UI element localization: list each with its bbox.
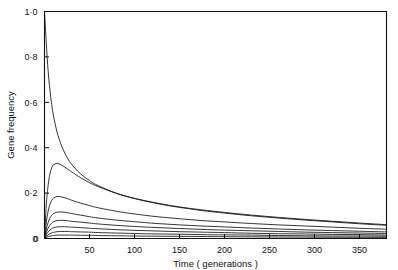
y-tick-label: 0·4 [24,143,37,153]
curve-curve-1 [45,12,387,226]
y-tick-label: 1·0 [24,7,37,17]
x-axis-title: Time ( generations ) [173,258,258,269]
y-tick-label: 0·8 [24,52,37,62]
x-tick-label: 150 [172,245,187,255]
x-tick-label: 200 [217,245,232,255]
y-axis-ticks: 00·20·40·60·81·0 [24,7,49,244]
gene-frequency-figure: 050100150200250300350 00·20·40·60·81·0 T… [0,0,398,270]
plot-frame [45,12,387,239]
y-tick-label: 0 [32,234,37,244]
y-axis-title: Gene frequency [5,91,16,159]
axis-frame [45,12,387,239]
x-tick-label: 50 [84,245,94,255]
y-tick-label: 0·2 [24,188,37,198]
x-tick-label: 300 [307,245,322,255]
data-curves [45,12,387,239]
x-tick-label: 100 [127,245,142,255]
y-tick-label: 0·6 [24,98,37,108]
chart-canvas: 050100150200250300350 00·20·40·60·81·0 T… [0,0,398,270]
x-tick-label: 350 [352,245,367,255]
x-tick-label: 250 [262,245,277,255]
